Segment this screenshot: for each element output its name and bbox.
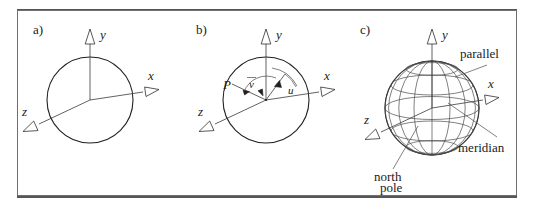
panel-c-label: c) (360, 22, 370, 37)
panel-c-y-axis-arrowhead (427, 29, 437, 44)
panel-c-z-axis-arrowhead (365, 129, 380, 140)
panel-c-parallel-label: parallel (460, 46, 499, 61)
panel-c-x-axis-label: x (487, 76, 494, 91)
figure-container: a) y x z b) y (0, 0, 535, 215)
panel-c-meridian-label: meridian (458, 140, 505, 155)
panel-c-north-pole-label-line2: pole (380, 180, 403, 195)
panel-c: c) y x z (0, 0, 535, 215)
panel-c-parallel-leader (455, 65, 487, 77)
panel-c-x-axis-arrowhead (485, 95, 499, 105)
panel-c-y-axis-label: y (440, 27, 448, 42)
panel-c-z-axis-label: z (363, 112, 369, 127)
